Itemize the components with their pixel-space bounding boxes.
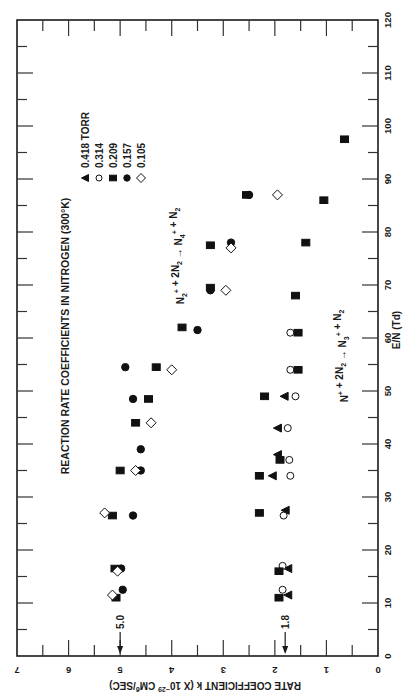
k-tick-label: 4 — [168, 665, 174, 676]
en-tick-label: 30 — [382, 492, 393, 503]
open-diamond-marker — [221, 285, 231, 295]
en-tick-label: 10 — [382, 598, 393, 609]
triangle-marker — [268, 472, 276, 480]
open-diamond-marker — [167, 365, 177, 375]
open-circle-marker — [286, 456, 293, 463]
square-marker — [291, 292, 299, 299]
en-tick-label: 90 — [382, 174, 393, 185]
triangle-marker — [280, 392, 288, 400]
open-circle-marker — [279, 586, 286, 593]
square-marker — [255, 473, 263, 480]
en-tick-label: 100 — [382, 118, 393, 134]
x-axis-title: E/N (Td) — [391, 311, 402, 349]
filled-circle-marker — [129, 512, 136, 519]
en-tick-label: 70 — [382, 280, 393, 291]
legend: 0.418 TORR0.3140.2090.1570.105 — [80, 111, 147, 182]
svg-text:N2+ + 2N2 → N4+ + N2: N2+ + 2N2 → N4+ + N2 — [168, 208, 188, 305]
open-circle-marker — [292, 393, 299, 400]
square-marker — [145, 396, 153, 403]
square-marker — [294, 329, 302, 336]
open-diamond-marker — [137, 174, 146, 183]
reaction-lower-annotation: N+ + 2N2 → N3+ + N2 — [332, 310, 350, 403]
svg-text:RATE COEFFICIENT k (X 10−29 CM: RATE COEFFICIENT k (X 10−29 CM6/SEC) — [109, 680, 301, 693]
square-marker — [275, 568, 283, 575]
en-tick-label: 0 — [382, 653, 393, 658]
legend-label: 0.418 TORR — [80, 111, 91, 168]
svg-text:E/N (Td): E/N (Td) — [391, 311, 402, 349]
open-circle-marker — [284, 425, 291, 432]
square-marker — [110, 175, 117, 181]
svg-text:5.0: 5.0 — [115, 615, 126, 629]
k-tick-label: 6 — [66, 665, 71, 676]
reaction-upper-annotation: N2+ + 2N2 → N4+ + N2 — [168, 208, 188, 305]
k-tick-label: 7 — [14, 665, 19, 676]
legend-label: 0.105 — [136, 143, 147, 168]
filled-circle-marker — [245, 191, 252, 198]
k-tick-label: 3 — [221, 665, 226, 676]
square-marker — [206, 242, 214, 249]
svg-text:1.8: 1.8 — [280, 615, 291, 629]
en-tick-label: 40 — [382, 439, 393, 450]
series-0-105 — [100, 190, 283, 600]
filled-circle-marker — [119, 586, 126, 593]
square-marker — [320, 197, 328, 204]
k-tick-label: 1 — [323, 665, 329, 676]
filled-circle-marker — [122, 363, 129, 370]
legend-label: 0.157 — [122, 143, 133, 168]
chart-title: REACTION RATE COEFFICIENTS IN NITROGEN (… — [59, 198, 71, 474]
rate-coefficient-chart: 010203040506070809010011012001234567 REA… — [0, 0, 415, 694]
limit-arrow-5-0: 5.0 — [115, 615, 126, 654]
en-tick-label: 120 — [382, 12, 393, 28]
data-points — [100, 136, 349, 601]
square-marker — [340, 136, 348, 143]
k-tick-label: 5 — [117, 665, 123, 676]
legend-label: 0.314 — [94, 143, 105, 168]
open-circle-marker — [280, 512, 287, 519]
square-marker — [116, 467, 124, 474]
square-marker — [276, 457, 284, 464]
square-marker — [294, 367, 302, 374]
open-diamond-marker — [272, 190, 282, 200]
en-tick-label: 110 — [382, 65, 393, 80]
square-marker — [132, 420, 140, 427]
k-tick-label: 2 — [272, 665, 277, 676]
triangle-marker — [82, 175, 89, 182]
en-tick-label: 20 — [382, 545, 393, 556]
square-marker — [255, 510, 263, 517]
legend-entry: 0.209 — [108, 143, 119, 181]
open-circle-marker — [287, 329, 294, 336]
square-marker — [275, 594, 283, 601]
k-tick-label: 0 — [375, 665, 380, 676]
limit-arrows: 5.01.8 — [115, 615, 291, 654]
open-circle-marker — [287, 472, 294, 479]
k-axis-title: RATE COEFFICIENT k (X 10−29 CM6/SEC) — [109, 680, 301, 693]
square-marker — [302, 239, 310, 246]
filled-circle-marker — [129, 395, 136, 402]
en-tick-label: 50 — [382, 386, 393, 397]
legend-entry: 0.418 TORR — [80, 111, 91, 181]
filled-circle-marker — [137, 446, 144, 453]
triangle-marker — [273, 424, 281, 432]
open-diamond-marker — [146, 418, 156, 428]
plot-frame — [17, 20, 378, 656]
legend-entry: 0.105 — [136, 143, 147, 183]
filled-circle-marker — [124, 175, 130, 181]
square-marker — [261, 393, 269, 400]
series-0-209 — [108, 136, 348, 601]
open-circle-marker — [96, 175, 102, 181]
filled-circle-marker — [207, 287, 214, 294]
axis-ticks — [17, 20, 378, 656]
svg-text:N+ + 2N2 → N3+ + N2: N+ + 2N2 → N3+ + N2 — [332, 310, 350, 403]
legend-entry: 0.314 — [94, 143, 105, 181]
open-circle-marker — [287, 366, 294, 373]
square-marker — [152, 364, 160, 371]
filled-circle-marker — [194, 326, 201, 333]
limit-arrow-1-8: 1.8 — [280, 615, 291, 654]
legend-entry: 0.157 — [122, 143, 133, 182]
plot-border — [17, 20, 378, 656]
legend-label: 0.209 — [108, 143, 119, 168]
square-marker — [178, 324, 186, 331]
en-tick-label: 80 — [382, 227, 393, 238]
